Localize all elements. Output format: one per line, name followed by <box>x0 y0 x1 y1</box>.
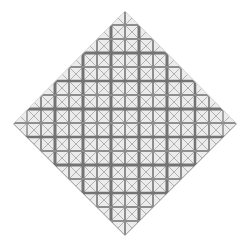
cell-diagonal <box>55 53 69 67</box>
cell-diagonal <box>41 221 55 235</box>
cell-diagonal <box>209 25 223 39</box>
cell-diagonal <box>41 11 55 25</box>
cell-diagonal <box>55 39 69 53</box>
cell-diagonal <box>13 11 27 25</box>
cell-diagonal <box>27 53 41 67</box>
cell-diagonal <box>223 179 237 193</box>
cell-diagonal <box>209 221 223 235</box>
cell-diagonal <box>195 39 209 53</box>
cell-diagonal <box>195 179 209 193</box>
cell-diagonal <box>13 39 27 53</box>
cell-diagonal <box>195 11 209 25</box>
cell-diagonal <box>13 165 27 179</box>
cell-diagonal <box>195 11 209 25</box>
cell-diagonal <box>209 81 223 95</box>
cell-diagonal <box>27 221 41 235</box>
cell-diagonal <box>41 165 55 179</box>
cell-diagonal <box>69 207 83 221</box>
cell-diagonal <box>153 11 167 25</box>
cell-diagonal <box>41 179 55 193</box>
cell-diagonal <box>209 11 223 25</box>
cell-diagonal <box>209 193 223 207</box>
cell-diagonal <box>181 207 195 221</box>
cell-diagonal <box>27 67 41 81</box>
cell-diagonal <box>223 53 237 67</box>
cell-diagonal <box>13 207 27 221</box>
cell-diagonal <box>27 151 41 165</box>
cell-diagonal <box>27 193 41 207</box>
cell-diagonal <box>167 11 181 25</box>
cell-diagonal <box>195 221 209 235</box>
cell-diagonal <box>223 165 237 179</box>
cell-diagonal <box>181 53 195 67</box>
cell-diagonal <box>167 193 181 207</box>
cell-diagonal <box>55 207 69 221</box>
lozenge-composition-artwork <box>0 0 252 249</box>
cell-diagonal <box>27 179 41 193</box>
cell-diagonal <box>41 207 55 221</box>
cell-diagonal <box>223 25 237 39</box>
cell-diagonal <box>195 193 209 207</box>
cell-diagonal <box>55 11 69 25</box>
cell-diagonal <box>223 137 237 151</box>
cell-diagonal <box>27 193 41 207</box>
cell-diagonal <box>209 25 223 39</box>
cell-diagonal <box>13 95 27 109</box>
cell-diagonal <box>55 221 69 235</box>
cell-diagonal <box>181 39 195 53</box>
cell-diagonal <box>13 39 27 53</box>
cell-diagonal <box>181 221 195 235</box>
cell-diagonal <box>181 25 195 39</box>
cell-diagonal <box>195 207 209 221</box>
cell-diagonal <box>13 67 27 81</box>
cell-diagonal <box>41 193 55 207</box>
cell-diagonal <box>83 11 97 25</box>
cell-diagonal <box>139 11 153 25</box>
cell-diagonal <box>181 11 195 25</box>
cell-diagonal <box>223 11 237 25</box>
cell-diagonal <box>223 207 237 221</box>
cell-diagonal <box>69 193 83 207</box>
cell-diagonal <box>13 165 27 179</box>
cell-diagonal <box>55 221 69 235</box>
cell-diagonal <box>13 151 27 165</box>
cell-diagonal <box>223 11 237 25</box>
cell-diagonal <box>13 95 27 109</box>
cell-diagonal <box>181 193 195 207</box>
cell-diagonal <box>195 67 209 81</box>
cell-diagonal <box>181 179 195 193</box>
cell-diagonal <box>41 25 55 39</box>
cell-diagonal <box>69 39 83 53</box>
cell-diagonal <box>27 81 41 95</box>
cell-diagonal <box>13 25 27 39</box>
cell-diagonal <box>41 179 55 193</box>
cell-diagonal <box>55 25 69 39</box>
cell-diagonal <box>181 207 195 221</box>
cell-diagonal <box>209 221 223 235</box>
cell-diagonal <box>195 193 209 207</box>
cell-diagonal <box>167 25 181 39</box>
cell-diagonal <box>27 25 41 39</box>
cell-diagonal <box>195 165 209 179</box>
cell-diagonal <box>153 221 167 235</box>
cell-diagonal <box>195 207 209 221</box>
cell-diagonal <box>27 207 41 221</box>
cell-diagonal <box>167 11 181 25</box>
cell-diagonal <box>139 11 153 25</box>
cell-diagonal <box>223 193 237 207</box>
cell-diagonal <box>209 151 223 165</box>
cell-diagonal <box>41 53 55 67</box>
cell-diagonal <box>209 67 223 81</box>
cell-diagonal <box>41 67 55 81</box>
cell-diagonal <box>223 151 237 165</box>
cell-diagonal <box>181 179 195 193</box>
cell-diagonal <box>13 193 27 207</box>
cell-diagonal <box>69 25 83 39</box>
cell-diagonal <box>209 39 223 53</box>
cell-diagonal <box>223 39 237 53</box>
cell-diagonal <box>13 179 27 193</box>
cell-diagonal <box>13 193 27 207</box>
cell-diagonal <box>195 221 209 235</box>
cell-diagonal <box>27 11 41 25</box>
cell-diagonal <box>209 207 223 221</box>
